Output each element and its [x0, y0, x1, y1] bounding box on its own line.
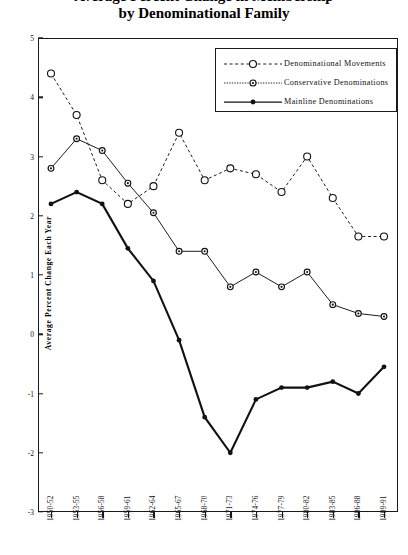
y-tick-mark	[38, 334, 43, 335]
y-tick-label: -2	[8, 448, 34, 457]
y-tick-mark	[38, 215, 43, 216]
y-tick-mark	[38, 97, 43, 98]
y-tick-mark	[38, 393, 43, 394]
x-tick-label: 1977-79	[277, 495, 286, 521]
y-tick-mark	[38, 37, 43, 38]
y-axis-title: Average Percent Change Each Year	[44, 216, 53, 350]
x-tick-label: 1974-76	[251, 495, 260, 521]
y-tick-mark	[38, 452, 43, 453]
x-tick-label: 1971-73	[225, 495, 234, 521]
y-tick-mark	[38, 511, 43, 512]
legend-item[interactable]: Conservative Denominations	[216, 73, 398, 92]
legend-item-label: Denominational Movements	[284, 59, 386, 68]
y-axis-tick-labels: 543210-1-2-3	[4, 0, 34, 555]
y-tick-label: 1	[8, 271, 34, 280]
y-tick-label: 2	[8, 211, 34, 220]
x-tick-label: 1989-91	[379, 495, 388, 521]
legend-marker-icon	[222, 56, 284, 72]
x-tick-label: 1986-88	[353, 495, 362, 521]
legend-item[interactable]: Denominational Movements	[216, 54, 398, 73]
y-tick-label: 3	[8, 152, 34, 161]
y-tick-mark	[38, 156, 43, 157]
y-tick-mark	[38, 274, 43, 275]
y-tick-label: -3	[8, 508, 34, 517]
chart-title: Average Percent Change in Membership by …	[0, 0, 408, 22]
chart-title-line-2: by Denominational Family	[0, 5, 408, 22]
legend-item-label: Conservative Denominations	[284, 78, 388, 87]
y-tick-label: 4	[8, 93, 34, 102]
y-tick-label: -1	[8, 389, 34, 398]
legend-item-label: Mainline Denominations	[284, 97, 373, 106]
x-tick-label: 1965-67	[174, 495, 183, 521]
chart-page: Average Percent Change in Membership by …	[0, 0, 408, 555]
x-tick-label: 1956-58	[97, 495, 106, 521]
x-tick-label: 1968-70	[200, 495, 209, 521]
y-tick-label: 0	[8, 330, 34, 339]
y-tick-label: 5	[8, 34, 34, 43]
x-tick-label: 1962-64	[148, 495, 157, 521]
legend-marker-icon	[222, 94, 284, 110]
legend-marker-icon	[222, 75, 284, 91]
x-tick-label: 1980-82	[302, 495, 311, 521]
chart-legend: Denominational MovementsConservative Den…	[215, 48, 397, 112]
x-tick-label: 1959-61	[123, 495, 132, 521]
x-tick-label: 1983-85	[328, 495, 337, 521]
legend-item[interactable]: Mainline Denominations	[216, 92, 398, 111]
x-tick-label: 1953-55	[72, 495, 81, 521]
x-tick-label: 1950-52	[46, 495, 55, 521]
